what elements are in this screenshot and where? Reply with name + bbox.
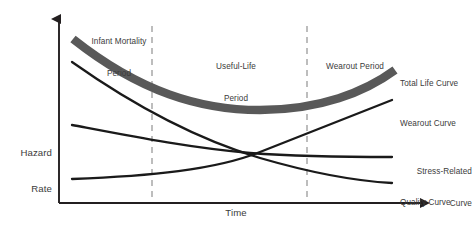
region-label-infant-mortality-line2: Period bbox=[69, 69, 169, 80]
bathtub-curve-diagram: Hazard Rate Time Infant Mortality Period… bbox=[0, 0, 476, 229]
region-label-wearout: Wearout Period bbox=[313, 41, 397, 94]
region-label-useful-life-line1: Useful-Life bbox=[191, 62, 281, 73]
curve-label-total-life-line1: Total Life Curve bbox=[400, 79, 476, 90]
curve-label-quality: Quality Curve bbox=[400, 177, 476, 229]
x-axis-label: Time bbox=[196, 207, 276, 219]
curve-label-wearout-line1: Wearout Curve bbox=[400, 119, 476, 130]
region-label-useful-life: Useful-Life Period bbox=[191, 41, 281, 125]
y-axis-label-line1: Hazard bbox=[6, 147, 52, 159]
curve-label-quality-line1: Quality Curve bbox=[400, 198, 476, 209]
region-label-infant-mortality-line1: Infant Mortality bbox=[69, 37, 169, 48]
region-label-infant-mortality: Infant Mortality Period bbox=[69, 16, 169, 100]
curve-label-stress-related-line1: Stress-Related bbox=[396, 167, 472, 178]
curve-label-wearout: Wearout Curve bbox=[400, 98, 476, 151]
y-axis-label: Hazard Rate bbox=[6, 123, 52, 219]
region-label-wearout-line1: Wearout Period bbox=[313, 62, 397, 73]
y-axis-label-line2: Rate bbox=[6, 183, 52, 195]
stress-related-curve-path bbox=[72, 125, 392, 157]
region-label-useful-life-line2: Period bbox=[191, 94, 281, 105]
